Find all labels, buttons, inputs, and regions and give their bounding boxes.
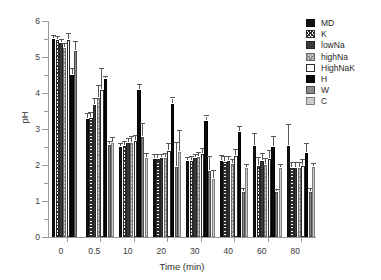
legend-label: lowNa — [321, 40, 345, 50]
error-bar-cap — [252, 133, 257, 134]
error-bar-cap — [196, 152, 201, 153]
error-bar-cap — [177, 130, 182, 131]
error-bar-cap — [286, 124, 291, 125]
error-bar — [232, 160, 233, 163]
error-bar — [165, 154, 166, 158]
y-tick-mark — [42, 237, 48, 238]
x-tick-mark — [67, 237, 68, 242]
legend-label: H — [321, 74, 327, 84]
error-bar — [295, 163, 296, 167]
error-bar — [276, 190, 277, 192]
x-tick-mark — [301, 237, 302, 242]
error-bar — [310, 189, 311, 191]
x-axis-line — [48, 237, 316, 238]
legend-label: HighNaK — [321, 63, 355, 73]
error-bar — [172, 99, 173, 104]
error-bar — [112, 138, 113, 142]
error-bar — [243, 189, 244, 191]
error-bar — [139, 85, 140, 89]
y-tick-label: 5 — [18, 53, 40, 61]
error-bar-cap — [118, 143, 123, 144]
error-bar-cap — [260, 153, 265, 154]
legend-swatch-icon — [306, 19, 315, 27]
error-bar-cap — [99, 68, 104, 69]
error-bar-cap — [256, 157, 261, 158]
error-bar — [306, 144, 307, 152]
error-bar — [64, 44, 65, 46]
error-bar-cap — [304, 143, 309, 144]
error-bar — [224, 157, 225, 161]
error-bar-cap — [126, 138, 131, 139]
error-bar — [299, 163, 300, 167]
error-bar — [109, 142, 110, 145]
error-bar — [176, 143, 177, 166]
bar-C-40 — [245, 168, 248, 237]
error-bar-cap — [55, 36, 60, 37]
x-tick-mark — [167, 237, 168, 242]
error-bar-cap — [237, 126, 242, 127]
legend-swatch-icon — [306, 86, 315, 94]
error-bar — [198, 153, 199, 156]
error-bar — [239, 127, 240, 131]
error-bar-cap — [185, 157, 190, 158]
error-bar-cap — [59, 39, 64, 40]
legend-swatch-icon — [306, 97, 315, 105]
error-bar-cap — [297, 162, 302, 163]
error-bar-cap — [140, 123, 145, 124]
x-tick-mark — [268, 237, 269, 242]
legend-swatch-icon — [306, 64, 315, 72]
x-tick-mark — [100, 237, 101, 242]
error-bar — [313, 164, 314, 165]
legend-label: highNa — [321, 52, 348, 62]
x-tick-mark — [234, 237, 235, 242]
error-bar-cap — [137, 84, 142, 85]
error-bar — [90, 113, 91, 117]
error-bar — [68, 34, 69, 39]
error-bar-cap — [103, 76, 108, 77]
y-axis-label: pH — [19, 88, 30, 148]
error-bar — [124, 142, 125, 145]
error-bar — [101, 69, 102, 89]
error-bar — [254, 134, 255, 145]
error-bar-cap — [66, 33, 71, 34]
y-tick-label: 1 — [18, 197, 40, 205]
error-bar — [161, 155, 162, 158]
legend-label: K — [321, 29, 327, 39]
error-bar-cap — [110, 137, 115, 138]
error-bar — [246, 165, 247, 166]
error-bar-cap — [73, 41, 78, 42]
error-bar — [265, 159, 266, 163]
error-bar — [72, 69, 73, 74]
error-bar — [135, 136, 136, 140]
error-bar-cap — [96, 85, 101, 86]
error-bar — [213, 171, 214, 177]
error-bar — [269, 151, 270, 157]
error-bar — [157, 155, 158, 158]
error-bar — [94, 99, 95, 103]
error-bar — [154, 155, 155, 158]
error-bar-cap — [189, 156, 194, 157]
legend-swatch-icon — [306, 41, 315, 49]
error-bar — [75, 42, 76, 50]
legend-label: W — [321, 85, 329, 95]
error-bar-cap — [278, 164, 283, 165]
error-bar — [195, 155, 196, 157]
legend-swatch-icon — [306, 53, 315, 61]
error-bar — [146, 154, 147, 157]
error-bar — [131, 137, 132, 141]
error-bar-cap — [207, 156, 212, 157]
bar-C-80 — [312, 167, 315, 237]
x-tick-mark — [201, 237, 202, 242]
bar-C-10 — [145, 158, 148, 237]
error-bar — [105, 77, 106, 79]
error-bar-cap — [144, 153, 149, 154]
error-bar — [206, 117, 207, 121]
error-bar-cap — [244, 164, 249, 165]
bar-C-60 — [279, 168, 282, 237]
error-bar — [209, 157, 210, 171]
error-bar-cap — [193, 154, 198, 155]
x-axis-label: Time (min) — [48, 261, 316, 272]
y-tick-label: 0 — [18, 233, 40, 241]
error-bar-cap — [226, 156, 231, 157]
error-bar-cap — [107, 141, 112, 142]
